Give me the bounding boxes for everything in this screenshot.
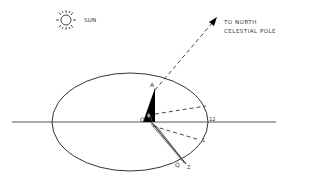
angle-label-phi: ϕ bbox=[147, 113, 150, 118]
pole-dashed-line bbox=[155, 22, 213, 90]
sun-icon bbox=[56, 10, 76, 30]
pole-label-line1: TO NORTH bbox=[224, 20, 257, 26]
point-label-z: Z bbox=[187, 165, 190, 170]
pole-label-line2: CELESTIAL POLE bbox=[224, 29, 276, 35]
point-label-12: 12 bbox=[209, 117, 215, 122]
point-label-a: A bbox=[150, 82, 154, 88]
line-to-z bbox=[151, 122, 186, 164]
point-label-q: Q bbox=[175, 162, 180, 168]
dashed-line-upper bbox=[155, 106, 206, 114]
point-label-o: O bbox=[140, 117, 145, 123]
sun-label: SUN bbox=[84, 18, 97, 24]
point-label-1: 1 bbox=[202, 138, 205, 143]
